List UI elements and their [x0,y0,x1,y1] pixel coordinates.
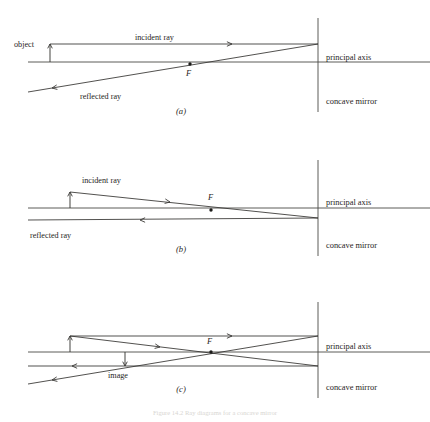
panel-c-reflected-ray-through-f [28,336,318,384]
panel-a-object-label: object [14,40,35,49]
panel-b-focal-point-label: F [207,193,214,202]
panels-layer: incident rayreflected rayobjectFprincipa… [14,18,430,398]
panel-a-reflected-ray [28,44,318,92]
panel-a-incident-ray-label: incident ray [135,33,175,42]
panel-a-focal-point-label: F [185,69,192,78]
panel-b-focal-point-dot [209,208,212,211]
panel-c-focal-point-label: F [206,337,213,346]
panel-a-focal-point-dot [188,62,191,65]
panel-c-focal-point-dot [209,350,212,353]
panel-c: imageFprincipal axisconcave mirror(c) [28,302,430,398]
panel-b-reflected-ray-label: reflected ray [30,231,72,240]
panel-b-reflected-ray [28,218,318,220]
panel-a-principal-axis-label: principal axis [326,53,371,62]
panel-b-reflected-ray-arrowhead [140,218,145,222]
panel-b: incident rayreflected rayFprincipal axis… [28,160,430,256]
panel-b-principal-axis-label: principal axis [326,198,371,207]
panel-c-principal-axis-label: principal axis [326,342,371,351]
figure-caption: Figure 14.2 Ray diagrams for a concave m… [153,409,278,416]
ray-diagram-svg: incident rayreflected rayobjectFprincipa… [0,0,430,422]
panel-c-concave-mirror-label: concave mirror [326,383,377,392]
panel-b-incident-ray [70,192,318,218]
panel-a-concave-mirror-label: concave mirror [326,97,377,106]
panel-b-concave-mirror-label: concave mirror [326,241,377,250]
panel-a-reflected-ray-label: reflected ray [80,92,122,101]
panel-c-image-label: image [108,371,128,380]
panel-b-incident-ray-label: incident ray [82,176,122,185]
panel-a: incident rayreflected rayobjectFprincipa… [14,18,430,116]
panel-a-tag: (a) [176,106,186,116]
panel-c-incident-ray-through-f [70,336,318,366]
panel-b-tag: (b) [176,244,186,254]
figure-root: incident rayreflected rayobjectFprincipa… [0,0,430,422]
panel-c-tag: (c) [176,384,186,394]
